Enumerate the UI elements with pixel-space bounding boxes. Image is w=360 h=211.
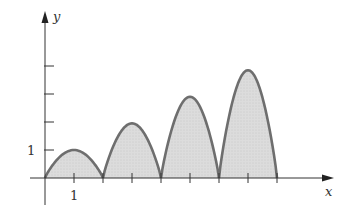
shaded-arches bbox=[45, 70, 277, 178]
x-axis-arrow-icon bbox=[322, 175, 334, 182]
x-axis-label: x bbox=[325, 184, 333, 199]
y-axis-arrow-icon bbox=[42, 11, 49, 23]
y-tick-label-1: 1 bbox=[27, 143, 35, 158]
chart-canvas: x y 1 1 bbox=[0, 0, 360, 211]
x-tick-label-1: 1 bbox=[70, 188, 78, 203]
y-axis-label: y bbox=[52, 9, 61, 24]
